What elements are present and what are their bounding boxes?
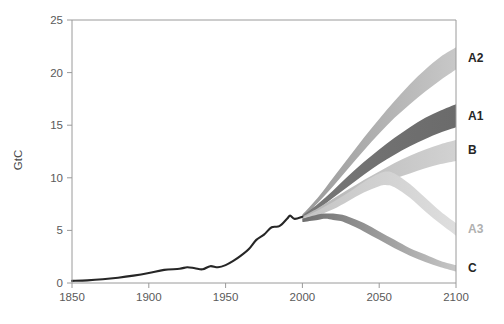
y-tick-label: 20: [50, 67, 63, 79]
historical-emissions-line: [72, 216, 302, 281]
x-tick-label: 2050: [366, 291, 392, 303]
series-label-c: C: [468, 261, 477, 275]
y-tick-label: 15: [50, 119, 63, 131]
x-tick-label: 1900: [136, 291, 162, 303]
y-axis-title: GtC: [12, 150, 24, 170]
x-tick-label: 1950: [213, 291, 239, 303]
y-tick-label: 25: [50, 14, 63, 26]
historical-line-layer: [72, 216, 302, 281]
y-tick-label: 10: [50, 172, 63, 184]
series-label-a1: A1: [468, 109, 484, 123]
scenario-band-c: [302, 213, 456, 271]
series-label-a2: A2: [468, 51, 484, 65]
scenario-bands-layer: [302, 47, 456, 271]
series-label-a3: A3: [468, 222, 484, 236]
series-label-b: B: [468, 143, 477, 157]
y-tick-label: 0: [57, 277, 63, 289]
x-tick-label: 2100: [443, 291, 469, 303]
x-tick-label: 1850: [59, 291, 85, 303]
chart-figure: 0510152025185019001950200020502100 A2A1B…: [0, 0, 504, 324]
x-tick-label: 2000: [290, 291, 316, 303]
y-tick-label: 5: [57, 224, 63, 236]
emissions-chart: 0510152025185019001950200020502100 A2A1B…: [0, 0, 504, 324]
series-labels-layer: A2A1BA3C: [468, 51, 484, 275]
